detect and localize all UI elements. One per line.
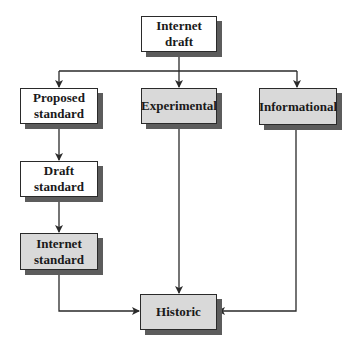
node-label: Historic — [156, 304, 201, 320]
node-label: Experimental — [141, 98, 217, 114]
node-historic: Historic — [140, 294, 217, 330]
node-label: Draft standard — [34, 163, 84, 195]
node-proposed-standard: Proposed standard — [20, 88, 98, 124]
node-draft-standard: Draft standard — [20, 161, 98, 197]
node-label: Informational — [259, 99, 337, 115]
edge-informational-to-historic — [218, 125, 296, 311]
node-internet-standard: Internet standard — [20, 233, 98, 270]
node-internet-draft: Internet draft — [141, 16, 217, 52]
node-informational: Informational — [259, 88, 337, 125]
node-label: Internet draft — [156, 18, 202, 50]
node-label: Internet standard — [34, 236, 84, 268]
node-experimental: Experimental — [141, 88, 217, 124]
edge-internetstd-to-historic — [59, 270, 139, 311]
rfc-maturity-diagram: Internet draft Proposed standard Experim… — [0, 0, 360, 349]
node-label: Proposed standard — [33, 90, 85, 122]
